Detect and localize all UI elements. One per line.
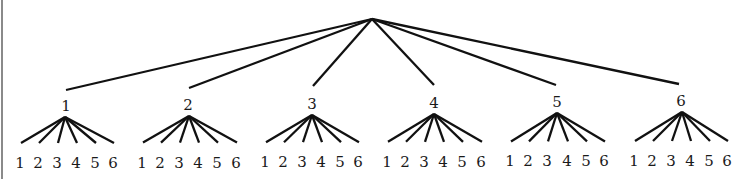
- leaf-label-1-3: 3: [52, 154, 62, 172]
- level1-node-label-5: 5: [552, 93, 562, 111]
- leaf-label-1-5: 5: [90, 154, 100, 172]
- leaf-label-1-4: 4: [71, 154, 81, 172]
- leaf-label-5-1: 1: [505, 152, 515, 170]
- level2-labels: 123456123456123456123456123456123456: [15, 152, 732, 172]
- leaf-label-5-4: 4: [562, 152, 572, 170]
- leaf-label-2-2: 2: [155, 154, 165, 172]
- leaf-label-3-4: 4: [316, 153, 326, 171]
- level1-node-label-1: 1: [61, 97, 71, 115]
- tree-svg: 123456 123456123456123456123456123456123…: [0, 0, 753, 179]
- level1-node-label-3: 3: [307, 95, 317, 113]
- level1-node-label-4: 4: [429, 94, 439, 112]
- leaf-label-6-6: 6: [722, 152, 732, 170]
- level1-node-label-2: 2: [183, 96, 193, 114]
- leaf-label-4-3: 3: [419, 153, 429, 171]
- tree-diagram: 123456 123456123456123456123456123456123…: [0, 0, 753, 179]
- leaf-label-3-2: 2: [278, 153, 288, 171]
- leaf-label-3-3: 3: [297, 153, 307, 171]
- leaf-label-3-1: 1: [260, 153, 270, 171]
- leaf-label-5-5: 5: [581, 152, 591, 170]
- leaf-label-2-5: 5: [212, 154, 222, 172]
- level1-edges: [66, 19, 679, 90]
- leaf-label-4-6: 6: [476, 153, 486, 171]
- leaf-label-1-6: 6: [108, 154, 118, 172]
- leaf-label-5-3: 3: [542, 152, 552, 170]
- leaf-label-1-1: 1: [15, 154, 25, 172]
- leaf-label-5-2: 2: [523, 152, 533, 170]
- leaf-label-4-5: 5: [457, 153, 467, 171]
- leaf-label-6-5: 5: [704, 152, 714, 170]
- leaf-label-4-4: 4: [438, 153, 448, 171]
- leaf-label-3-5: 5: [335, 153, 345, 171]
- leaf-label-6-2: 2: [647, 152, 657, 170]
- leaf-label-6-1: 1: [629, 152, 639, 170]
- leaf-label-2-4: 4: [193, 154, 203, 172]
- leaf-edge-1-6: [65, 117, 114, 143]
- leaf-label-4-1: 1: [382, 153, 392, 171]
- leaf-label-1-2: 2: [33, 154, 43, 172]
- level2-edges: [21, 112, 728, 143]
- level1-edge-1: [66, 19, 372, 90]
- leaf-label-2-3: 3: [174, 154, 184, 172]
- leaf-label-6-3: 3: [666, 152, 676, 170]
- leaf-label-2-1: 1: [137, 154, 147, 172]
- leaf-label-6-4: 4: [685, 152, 695, 170]
- level1-labels: 123456: [61, 92, 686, 115]
- leaf-label-4-2: 2: [400, 153, 410, 171]
- leaf-label-3-6: 6: [353, 153, 363, 171]
- leaf-label-2-6: 6: [231, 154, 241, 172]
- leaf-label-5-6: 6: [599, 152, 609, 170]
- level1-edge-2: [189, 19, 372, 88]
- level1-node-label-6: 6: [676, 92, 686, 110]
